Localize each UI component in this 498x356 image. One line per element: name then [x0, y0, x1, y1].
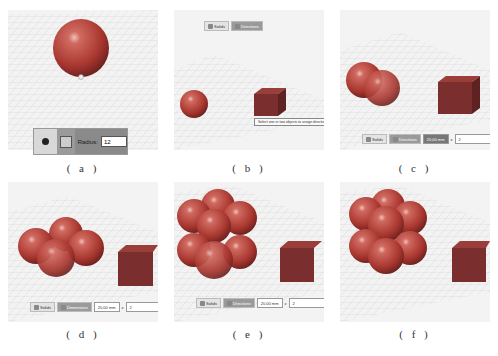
distance-input[interactable]: 20.00 mm — [94, 302, 120, 312]
sphere[interactable] — [180, 90, 208, 118]
caption-b: ( b ) — [174, 162, 324, 174]
times-label: x — [285, 301, 287, 306]
distance-input[interactable]: 20.00 mm — [257, 298, 283, 308]
sphere-icon — [42, 138, 49, 145]
cube[interactable] — [254, 94, 278, 116]
sphere[interactable] — [364, 70, 400, 106]
cube[interactable] — [452, 248, 486, 282]
distance-input[interactable]: 20.00 mm — [423, 134, 449, 144]
radius-toolbar: Radius: — [33, 128, 128, 155]
sphere[interactable] — [53, 19, 109, 77]
radius-input[interactable] — [101, 136, 127, 147]
panel-e: Solids Directions 20.00 mm x 2 — [174, 182, 324, 322]
solids-icon — [34, 305, 39, 310]
count-input[interactable]: 2 — [126, 302, 158, 312]
toolbar-c: Solids Directions 20.00 mm x 2 — [362, 134, 490, 144]
directions-button[interactable]: Directions — [231, 21, 263, 31]
count-input[interactable]: 2 — [289, 298, 325, 308]
cube[interactable] — [280, 248, 314, 282]
solids-icon — [366, 137, 371, 142]
solids-button[interactable]: Solids — [30, 302, 55, 312]
viewport-b[interactable] — [174, 10, 324, 150]
solids-icon — [200, 301, 205, 306]
toolbar-b: Solids Directions — [204, 21, 263, 31]
panel-b: Solids Directions Select one or two obje… — [174, 10, 324, 150]
directions-button[interactable]: Directions — [389, 134, 421, 144]
tooltip: Select one or two objects to assign dire… — [254, 118, 324, 126]
sphere-button[interactable] — [34, 129, 57, 154]
viewport-d[interactable] — [8, 182, 158, 322]
directions-icon — [61, 305, 66, 310]
viewport-c[interactable] — [340, 10, 490, 150]
caption-e: ( e ) — [174, 328, 324, 340]
caption-a: ( a ) — [8, 162, 158, 174]
caption-c: ( c ) — [340, 162, 490, 174]
solid-button[interactable] — [57, 129, 74, 154]
sphere[interactable] — [37, 239, 75, 277]
cube[interactable] — [118, 252, 153, 286]
solid-icon — [60, 136, 72, 148]
directions-icon — [235, 24, 240, 29]
radius-label: Radius: — [78, 139, 98, 145]
directions-button[interactable]: Directions — [223, 298, 255, 308]
toolbar-e: Solids Directions 20.00 mm x 2 — [196, 298, 324, 308]
panel-c: Solids Directions 20.00 mm x 2 — [340, 10, 490, 150]
directions-button[interactable]: Dimensions — [57, 302, 92, 312]
times-label: x — [451, 137, 453, 142]
panel-d: Solids Dimensions 20.00 mm x 2 — [8, 182, 158, 322]
directions-icon — [393, 137, 398, 142]
cube[interactable] — [438, 82, 472, 114]
directions-icon — [227, 301, 232, 306]
toolbar-d: Solids Dimensions 20.00 mm x 2 — [30, 302, 158, 312]
caption-d: ( d ) — [8, 328, 158, 340]
panel-f — [340, 182, 490, 322]
solids-button[interactable]: Solids — [362, 134, 387, 144]
solids-button[interactable]: Solids — [204, 21, 229, 31]
times-label: x — [122, 305, 124, 310]
solids-icon — [208, 24, 213, 29]
count-input[interactable]: 2 — [455, 134, 491, 144]
solids-button[interactable]: Solids — [196, 298, 221, 308]
caption-f: ( f ) — [340, 328, 490, 340]
viewport-f[interactable] — [340, 182, 490, 322]
